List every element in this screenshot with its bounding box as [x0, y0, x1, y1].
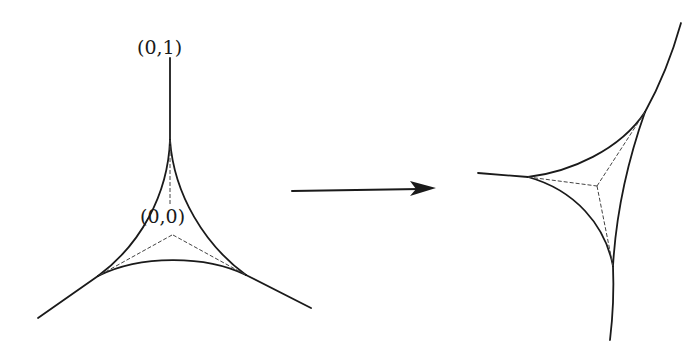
label-top-point: (0,1) — [137, 38, 182, 57]
left-deltoid — [38, 58, 311, 318]
right-tail-top — [645, 23, 681, 112]
right-dash-bottom — [597, 186, 613, 266]
left-tail-left — [38, 276, 98, 318]
left-tail-right — [246, 275, 311, 308]
right-dash-top — [597, 112, 645, 186]
left-dash-left — [98, 235, 172, 276]
right-edge-right — [613, 112, 645, 266]
right-edge-lower-left — [528, 177, 613, 266]
right-tail-left — [478, 173, 528, 177]
diagram-canvas — [0, 0, 698, 353]
right-dash-left — [528, 177, 597, 186]
transform-arrow — [292, 181, 436, 196]
right-tail-bottom — [610, 266, 613, 340]
label-center-point: (0,0) — [140, 207, 185, 226]
arrow-shaft — [292, 189, 420, 191]
right-deltoid — [478, 23, 681, 340]
